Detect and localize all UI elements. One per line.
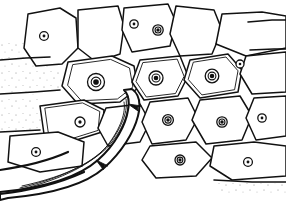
nucleus-medium [217,117,227,127]
upper-mid-cell [122,4,176,52]
nucleus-large [149,71,163,85]
nucleus-small [236,60,244,68]
nucleus-large [205,69,219,83]
nucleus-small [40,32,49,41]
nucleus-small [130,20,138,28]
upper-mid-right-cell [170,6,222,56]
nucleus-medium [163,115,174,126]
nucleus-medium [175,155,185,165]
nucleus-small [244,158,253,167]
cell-diagram-svg [0,0,286,201]
upper-mid-left-cell [78,6,124,62]
nucleus-small [258,114,266,122]
nucleus-large [88,74,105,91]
nucleus-small [75,117,85,127]
nucleus-medium [153,25,163,35]
nucleus-small [32,148,41,157]
figure-root: Plant tissue section with penetrating ro… [0,0,286,201]
